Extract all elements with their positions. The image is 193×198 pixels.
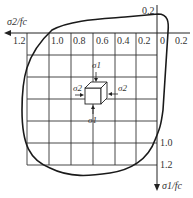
sigma1-bottom-label: σ1 bbox=[88, 115, 97, 125]
x-tick-0.2: 0.2 bbox=[138, 36, 151, 46]
arrow-right-icon bbox=[80, 93, 84, 97]
arrow-up-icon bbox=[91, 105, 95, 109]
y-tick-0.2: 0.2 bbox=[142, 6, 155, 16]
y-tick-1.0: 1.0 bbox=[160, 138, 173, 148]
sigma2-left-label: σ2 bbox=[73, 83, 82, 93]
sigma1-top-label: σ1 bbox=[92, 60, 101, 70]
x-tick-1.2: 1.2 bbox=[13, 36, 26, 46]
x-tick-0: 0 bbox=[160, 36, 165, 46]
cube-element bbox=[85, 82, 107, 104]
x-axis-arrow-icon bbox=[4, 30, 11, 36]
arrow-left-icon bbox=[108, 92, 112, 96]
y-axis-label: σ1/fc bbox=[162, 181, 182, 191]
y-tick-1.2: 1.2 bbox=[160, 160, 173, 170]
x-tick-0.6: 0.6 bbox=[96, 36, 109, 46]
x-tick-1.0: 1.0 bbox=[51, 36, 64, 46]
x-tick-0.8: 0.8 bbox=[73, 36, 86, 46]
arrow-down-icon bbox=[94, 78, 98, 82]
y-axis-arrow-icon bbox=[154, 184, 160, 191]
x-axis-label: σ2/fc bbox=[7, 17, 27, 27]
sigma2-right-label: σ2 bbox=[118, 83, 127, 93]
x-tick-pos-0.2: 0.2 bbox=[175, 36, 188, 46]
x-tick-0.4: 0.4 bbox=[117, 36, 130, 46]
